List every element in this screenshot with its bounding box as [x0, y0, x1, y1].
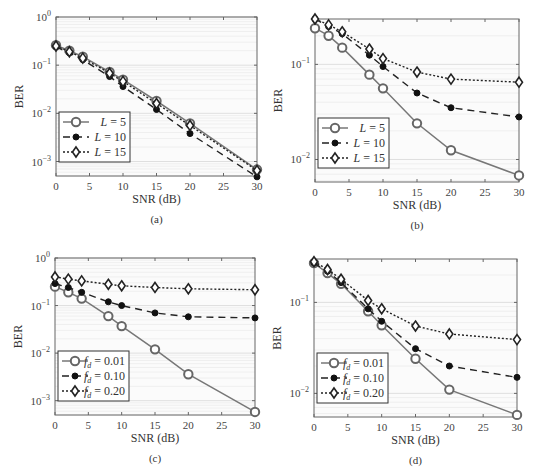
legend-label: L = 15 — [353, 151, 385, 165]
dot-marker-icon — [105, 299, 111, 305]
circle-marker-icon — [447, 146, 455, 154]
y-tick-label: 10−1 — [290, 56, 310, 70]
x-tick-label: 15 — [150, 419, 162, 431]
x-axis-label: SNR (dB) — [132, 192, 180, 206]
legend-label: L = 5 — [359, 121, 385, 135]
chart-panel-c: 05101520253010010−110−210−3SNR (dB)BER(c… — [11, 250, 261, 465]
circle-marker-icon — [411, 355, 419, 363]
x-tick-label: 10 — [116, 419, 128, 431]
dot-marker-icon — [73, 134, 79, 140]
y-tick-label: 10−1 — [31, 57, 51, 71]
circle-marker-icon — [365, 70, 373, 78]
subfigure-caption: (c) — [149, 452, 162, 465]
x-tick-label: 20 — [183, 419, 195, 431]
y-axis-label: BER — [12, 85, 26, 108]
circle-marker-icon — [445, 385, 453, 393]
x-tick-label: 0 — [53, 180, 59, 192]
x-tick-label: 30 — [512, 421, 524, 433]
dot-marker-icon — [79, 289, 85, 295]
dot-marker-icon — [516, 114, 522, 120]
x-tick-label: 20 — [446, 186, 458, 198]
chart-panel-d: 05101520253010−110−2SNR (dB)BER(d)fd = 0… — [270, 257, 523, 467]
x-tick-label: 20 — [185, 180, 197, 192]
legend-label: L = 10 — [94, 130, 126, 144]
x-tick-label: 25 — [478, 421, 490, 433]
x-tick-label: 15 — [410, 421, 422, 433]
legend-label: L = 15 — [94, 145, 126, 159]
y-tick-label: 10−3 — [31, 154, 51, 168]
x-tick-label: 5 — [86, 419, 92, 431]
y-tick-label: 10−1 — [289, 294, 309, 308]
legend-label: L = 10 — [353, 136, 385, 150]
x-tick-label: 10 — [378, 186, 390, 198]
circle-marker-icon — [513, 411, 521, 419]
x-tick-label: 10 — [118, 180, 130, 192]
legend-label: L = 5 — [100, 115, 126, 129]
y-tick-label: 10−1 — [30, 298, 50, 312]
circle-marker-icon — [324, 32, 332, 40]
circle-marker-icon — [338, 43, 346, 51]
dot-marker-icon — [119, 303, 125, 309]
chart-panel-a: 05101520253010010−110−210−3SNR (dB)BER(a… — [12, 9, 263, 226]
x-tick-label: 5 — [346, 186, 352, 198]
subfigure-caption: (d) — [409, 454, 422, 467]
y-axis-label: BER — [271, 89, 285, 112]
dot-marker-icon — [414, 90, 420, 96]
y-axis-label: BER — [11, 325, 25, 348]
y-tick-label: 10−2 — [31, 105, 51, 119]
x-tick-label: 5 — [345, 421, 351, 433]
x-tick-label: 30 — [514, 186, 526, 198]
dot-marker-icon — [252, 315, 258, 321]
dot-marker-icon — [413, 346, 419, 352]
dot-marker-icon — [331, 375, 337, 381]
y-tick-label: 10−2 — [30, 345, 50, 359]
y-tick-label: 100 — [36, 9, 51, 23]
y-tick-label: 10−2 — [290, 151, 310, 165]
x-axis-label: SNR (dB) — [391, 433, 439, 447]
y-tick-label: 10−3 — [30, 393, 50, 407]
x-tick-label: 0 — [52, 419, 58, 431]
dot-marker-icon — [446, 363, 452, 369]
legend: L = 5L = 10L = 15 — [59, 112, 130, 162]
dot-marker-icon — [185, 314, 191, 320]
y-tick-label: 100 — [35, 250, 50, 264]
legend: fd = 0.01fd = 0.10fd = 0.20 — [317, 353, 388, 403]
x-tick-label: 15 — [151, 180, 163, 192]
circle-marker-icon — [72, 118, 80, 126]
figure: 05101520253010010−110−210−3SNR (dB)BER(a… — [0, 0, 533, 476]
circle-marker-icon — [379, 84, 387, 92]
legend: fd = 0.01fd = 0.10fd = 0.20 — [58, 351, 129, 401]
y-tick-label: 10−2 — [289, 385, 309, 399]
x-tick-label: 20 — [444, 421, 456, 433]
x-tick-label: 0 — [311, 421, 317, 433]
circle-marker-icon — [330, 359, 338, 367]
dot-marker-icon — [332, 140, 338, 146]
dot-marker-icon — [72, 373, 78, 379]
x-tick-label: 30 — [252, 180, 264, 192]
dot-marker-icon — [448, 105, 454, 111]
x-tick-label: 25 — [216, 419, 228, 431]
circle-marker-icon — [117, 322, 125, 330]
circle-marker-icon — [515, 171, 523, 179]
dot-marker-icon — [514, 374, 520, 380]
circle-marker-icon — [331, 124, 339, 132]
x-axis-label: SNR (dB) — [131, 431, 179, 445]
subfigure-caption: (b) — [411, 219, 424, 232]
x-axis-label: SNR (dB) — [393, 198, 441, 212]
x-tick-label: 25 — [218, 180, 230, 192]
x-tick-label: 30 — [250, 419, 262, 431]
dot-marker-icon — [152, 310, 158, 316]
y-axis-label: BER — [270, 326, 284, 349]
x-tick-label: 25 — [480, 186, 492, 198]
x-tick-label: 10 — [376, 421, 388, 433]
x-tick-label: 15 — [412, 186, 424, 198]
circle-marker-icon — [71, 357, 79, 365]
dot-marker-icon — [379, 318, 385, 324]
x-tick-label: 5 — [87, 180, 93, 192]
circle-marker-icon — [413, 119, 421, 127]
legend: L = 5L = 10L = 15 — [318, 118, 389, 168]
x-tick-label: 0 — [312, 186, 318, 198]
subfigure-caption: (a) — [150, 213, 163, 226]
circle-marker-icon — [184, 370, 192, 378]
circle-marker-icon — [104, 312, 112, 320]
